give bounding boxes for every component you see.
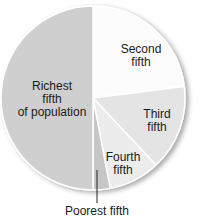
label-poorest: Poorest fifth bbox=[62, 205, 132, 218]
label-third: Third fifth bbox=[134, 108, 180, 134]
label-line: of population bbox=[14, 106, 90, 119]
label-line: fifth bbox=[103, 164, 143, 177]
label-second: Second fifth bbox=[110, 43, 172, 69]
label-richest: Richest fifth of population bbox=[14, 80, 90, 119]
label-line: fifth bbox=[134, 121, 180, 134]
label-line: fifth bbox=[110, 56, 172, 69]
label-fourth: Fourth fifth bbox=[103, 151, 143, 177]
